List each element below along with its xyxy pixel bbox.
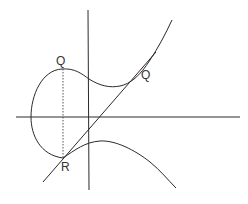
curve-lower-branch <box>63 141 176 188</box>
label-q-tangent: Q <box>141 68 150 82</box>
label-q-top: Q <box>56 54 65 68</box>
curve-upper-branch <box>31 20 172 158</box>
elliptic-curve-diagram: Q Q R <box>0 0 248 204</box>
y-axis <box>88 10 89 190</box>
label-r: R <box>61 160 70 174</box>
